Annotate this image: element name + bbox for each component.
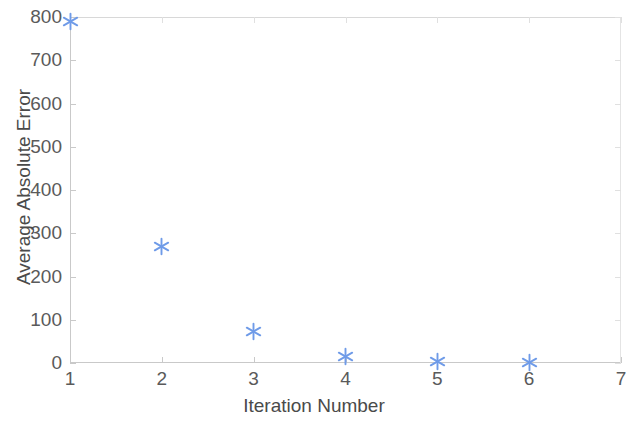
data-point-marker — [153, 238, 170, 255]
y-tick-mark — [70, 60, 76, 61]
x-tick-mark-top — [621, 17, 622, 23]
y-tick-mark-right — [615, 363, 621, 364]
y-tick-label: 600 — [30, 93, 62, 115]
data-point-marker — [62, 13, 79, 30]
x-tick-mark — [70, 357, 71, 363]
x-tick-label: 5 — [432, 368, 443, 390]
x-tick-mark — [162, 357, 163, 363]
y-tick-mark-right — [615, 190, 621, 191]
x-tick-mark-top — [162, 17, 163, 23]
y-tick-mark — [70, 320, 76, 321]
y-tick-label: 700 — [30, 49, 62, 71]
y-tick-label: 500 — [30, 136, 62, 158]
y-tick-mark — [70, 277, 76, 278]
x-tick-mark-top — [529, 17, 530, 23]
y-tick-mark-right — [615, 147, 621, 148]
x-tick-label: 6 — [524, 368, 535, 390]
data-point-marker — [245, 323, 262, 340]
y-axis-title: Average Absolute Error — [13, 57, 35, 317]
y-tick-mark-right — [615, 60, 621, 61]
y-tick-label: 800 — [30, 6, 62, 28]
x-tick-mark-top — [437, 17, 438, 23]
x-tick-mark — [254, 357, 255, 363]
y-tick-label: 100 — [30, 309, 62, 331]
y-tick-mark-right — [615, 104, 621, 105]
y-tick-mark-right — [615, 277, 621, 278]
y-tick-mark — [70, 147, 76, 148]
y-tick-label: 0 — [51, 352, 62, 374]
chart-figure: 0100200300400500600700800 1234567 Iterat… — [0, 0, 628, 422]
x-tick-label: 4 — [340, 368, 351, 390]
x-axis-title: Iteration Number — [0, 395, 628, 417]
x-tick-mark-top — [346, 17, 347, 23]
x-tick-mark-top — [254, 17, 255, 23]
y-tick-mark — [70, 233, 76, 234]
x-tick-mark — [621, 357, 622, 363]
x-tick-label: 1 — [65, 368, 76, 390]
data-point-marker — [337, 348, 354, 365]
y-tick-mark — [70, 190, 76, 191]
y-tick-label: 400 — [30, 179, 62, 201]
x-tick-label: 2 — [157, 368, 168, 390]
y-tick-label: 300 — [30, 222, 62, 244]
x-tick-label: 3 — [248, 368, 259, 390]
plot-area — [70, 17, 621, 363]
y-tick-mark — [70, 363, 76, 364]
y-tick-mark-right — [615, 233, 621, 234]
y-tick-mark — [70, 104, 76, 105]
x-tick-label: 7 — [616, 368, 627, 390]
y-tick-mark-right — [615, 320, 621, 321]
y-tick-label: 200 — [30, 266, 62, 288]
